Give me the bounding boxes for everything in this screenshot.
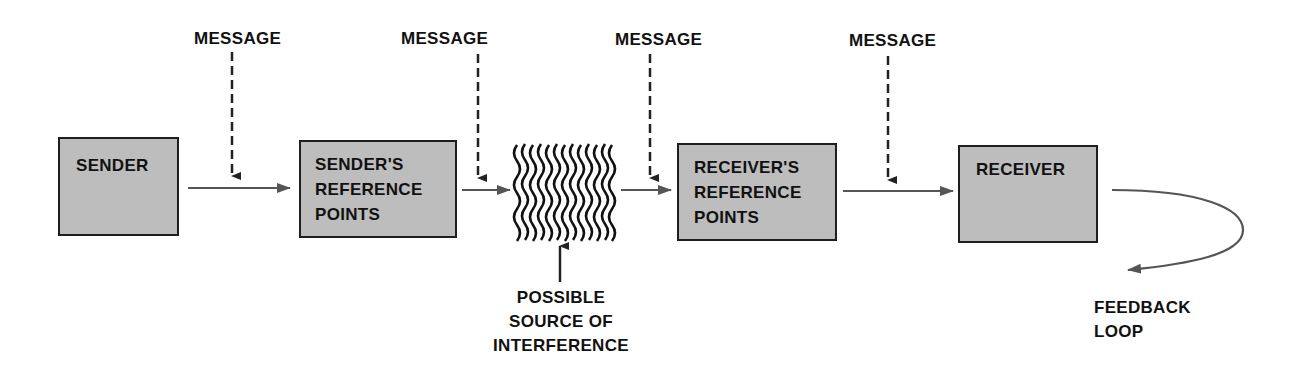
- feedback-loop-label: FEEDBACK LOOP: [1094, 296, 1191, 344]
- senders-reference-points-label: SENDER'S REFERENCE POINTS: [315, 152, 455, 227]
- sender-label: SENDER: [76, 153, 177, 178]
- message-label-3: MESSAGE: [615, 30, 702, 50]
- message-label-1: MESSAGE: [194, 29, 281, 49]
- message-label-2: MESSAGE: [401, 29, 488, 49]
- interference-wave-icon: [514, 144, 615, 241]
- receivers-reference-points-label: RECEIVER'S REFERENCE POINTS: [694, 155, 835, 230]
- feedback-loop-arrow: [1112, 190, 1243, 270]
- senders-reference-points-box: SENDER'S REFERENCE POINTS: [299, 140, 457, 238]
- message-label-4: MESSAGE: [849, 31, 936, 51]
- receiver-box: RECEIVER: [958, 145, 1098, 243]
- sender-box: SENDER: [58, 137, 179, 236]
- receiver-label: RECEIVER: [976, 157, 1096, 182]
- communication-diagram: MESSAGE MESSAGE MESSAGE MESSAGE SENDER S…: [0, 0, 1298, 375]
- receivers-reference-points-box: RECEIVER'S REFERENCE POINTS: [677, 143, 837, 241]
- interference-label: POSSIBLE SOURCE OF INTERFERENCE: [470, 286, 652, 358]
